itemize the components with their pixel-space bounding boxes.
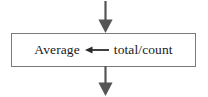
assignment-arrow-left-icon	[85, 44, 109, 56]
incoming-flow-arrow	[92, 0, 119, 34]
assignment-statement: Average total/count	[34, 43, 172, 57]
flowchart-canvas: Average total/count	[0, 0, 208, 97]
outgoing-flow-arrow	[92, 66, 119, 97]
process-box: Average total/count	[11, 33, 196, 67]
assignment-expression-label: total/count	[114, 43, 173, 57]
assignment-target-label: Average	[34, 43, 79, 57]
